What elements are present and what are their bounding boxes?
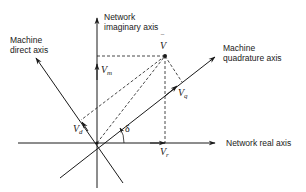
vq-label: Vq xyxy=(178,87,188,100)
machine-quadrature-axis-label: Machine quadrature axis xyxy=(223,44,282,63)
vd-label: Vd xyxy=(73,123,83,136)
origin-point xyxy=(95,141,98,144)
network-imaginary-axis-label: Network imaginary axis xyxy=(104,13,158,32)
vr-label: Vr xyxy=(160,146,169,159)
vm-label: Vm xyxy=(101,64,112,77)
phasor-diagram: Network imaginary axis Machine direct ax… xyxy=(0,0,306,192)
vd-projection xyxy=(81,56,165,120)
v-bar-label: ‾V xyxy=(160,40,166,51)
machine-direct-axis-label: Machine direct axis xyxy=(10,36,48,55)
vq-projection xyxy=(165,56,182,82)
machine-quadrature-axis xyxy=(60,57,215,178)
v-point xyxy=(163,54,167,58)
network-real-axis-label: Network real axis xyxy=(226,139,291,149)
vq-vector xyxy=(165,86,177,96)
delta-label: δ xyxy=(125,123,130,134)
